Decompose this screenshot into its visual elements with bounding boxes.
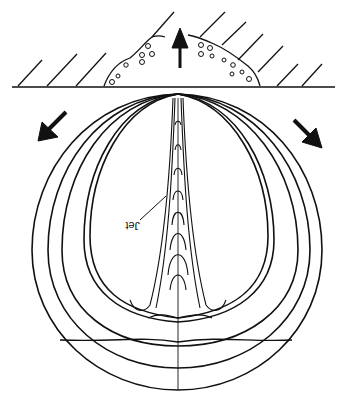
arrow-up-icon [172,28,188,68]
jet [130,98,226,390]
bubble-contours [32,94,322,390]
jet-label: Jet [125,220,140,232]
arrow-down-left-icon [38,112,66,141]
arrow-down-right-icon [294,120,322,148]
bubble-collapse-diagram: Jet [0,0,347,409]
jet-leader-line [140,196,166,220]
wall [12,12,335,87]
